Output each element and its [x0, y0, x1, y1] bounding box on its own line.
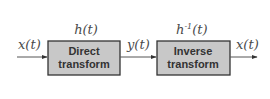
- inverse-transform-line1: Inverse: [174, 45, 213, 57]
- block-diagram: x(t) Direct transform h(t) y(t) Inverse …: [0, 0, 270, 99]
- inverse-fn-arg: (t): [192, 22, 207, 37]
- inverse-fn-superscript: -1: [184, 22, 192, 31]
- direct-transform-block: Direct transform: [48, 41, 120, 75]
- direct-transform-line1: Direct: [68, 45, 100, 57]
- output-signal-label: x(t): [236, 37, 259, 52]
- direct-transform-line2: transform: [58, 58, 110, 70]
- inverse-transform-line2: transform: [167, 58, 219, 70]
- inverse-transform-function: h-1(t): [176, 22, 208, 37]
- direct-transform-function: h(t): [74, 22, 98, 37]
- input-signal-label: x(t): [18, 37, 41, 52]
- inverse-fn-base: h: [176, 22, 184, 37]
- inverse-transform-block: Inverse transform: [157, 41, 230, 75]
- intermediate-signal-label: y(t): [126, 37, 150, 52]
